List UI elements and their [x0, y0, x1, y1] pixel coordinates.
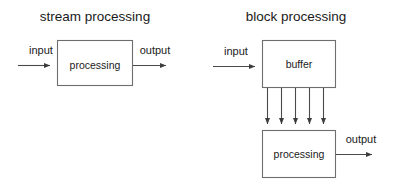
output-label-block: output [346, 133, 377, 145]
output-label-stream: output [140, 44, 171, 56]
parallel-arrows-group [268, 88, 324, 124]
panel-title-stream: stream processing [40, 9, 150, 24]
processing-box-label-block: processing [274, 148, 325, 160]
diagram-canvas: stream processing input processing outpu… [0, 0, 395, 186]
input-label-stream: input [29, 44, 53, 56]
panel-block-processing: block processing input buffer processing… [213, 9, 376, 178]
panel-stream-processing: stream processing input processing outpu… [18, 9, 170, 86]
input-label-block: input [224, 45, 248, 57]
panel-title-block: block processing [246, 9, 347, 24]
buffer-box-label: buffer [286, 58, 313, 70]
processing-box-label-stream: processing [70, 59, 121, 71]
block-diagram: stream processing input processing outpu… [0, 0, 395, 186]
